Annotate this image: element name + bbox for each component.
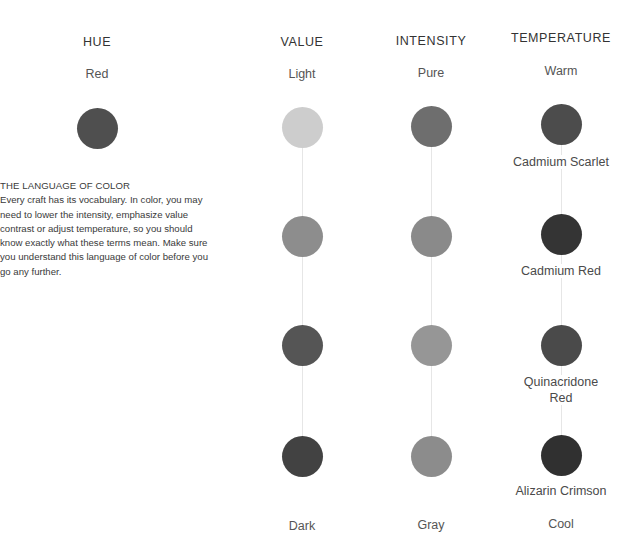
intensity-heading: INTENSITY [361, 34, 501, 48]
intensity-swatch-pure [411, 106, 452, 147]
value-swatch-mid-light [282, 216, 323, 257]
value-swatch-dark [282, 436, 323, 477]
temperature-swatch-cadmium-red [541, 214, 582, 255]
value-swatch-light [282, 107, 323, 148]
temperature-top-label: Warm [491, 64, 631, 78]
intensity-top-label: Pure [361, 66, 501, 80]
temperature-heading: TEMPERATURE [491, 31, 631, 45]
value-swatch-mid-dark [282, 325, 323, 366]
temperature-swatch-cadmium-scarlet [541, 104, 582, 145]
intro-body: Every craft has its vocabulary. In color… [0, 194, 208, 276]
paint-label-cadmium-scarlet: Cadmium Scarlet [496, 154, 626, 170]
temperature-swatch-alizarin-crimson [541, 435, 582, 476]
intensity-bottom-label: Gray [361, 518, 501, 532]
paint-label-alizarin-crimson: Alizarin Crimson [496, 483, 626, 499]
intro-title: THE LANGUAGE OF COLOR [0, 179, 215, 193]
temperature-connector-line [561, 124, 562, 456]
intensity-swatch-3 [411, 325, 452, 366]
temperature-swatch-quinacridone-red [541, 325, 582, 366]
hue-swatch [77, 108, 118, 149]
value-heading: VALUE [232, 35, 372, 49]
paint-label-quinacridone-red: Quinacridone Red [516, 374, 606, 406]
intensity-connector-line [431, 126, 432, 456]
hue-value-label: Red [27, 67, 167, 81]
paint-label-cadmium-red: Cadmium Red [496, 263, 626, 279]
value-top-label: Light [232, 67, 372, 81]
value-connector-line [302, 127, 303, 456]
value-bottom-label: Dark [232, 519, 372, 533]
temperature-bottom-label: Cool [491, 517, 631, 531]
hue-heading: HUE [27, 35, 167, 49]
intensity-swatch-gray [411, 436, 452, 477]
intro-block: THE LANGUAGE OF COLOR Every craft has it… [0, 179, 215, 279]
intensity-swatch-2 [411, 216, 452, 257]
